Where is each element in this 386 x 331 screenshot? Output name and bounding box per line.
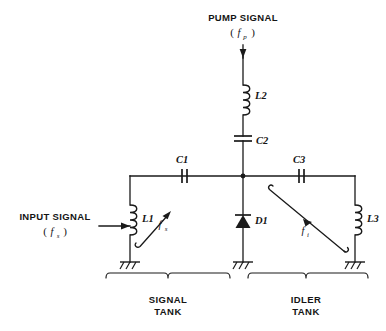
parametric-amplifier-diagram: PUMP SIGNAL ( f p ) L2 C2 [0, 0, 386, 331]
d1-anode-triangle-icon [236, 215, 251, 228]
component-c2: C2 [234, 135, 269, 146]
c1-label: C1 [176, 154, 188, 165]
l1-coil-icon [130, 205, 137, 235]
center-ground-hatch-1-icon [233, 262, 237, 269]
l3-coil-icon [355, 205, 362, 235]
ground-center [233, 262, 253, 269]
input-freq-open-paren: ( [43, 225, 47, 238]
signal-ground-hatch-2-icon [126, 262, 130, 269]
input-freq-close-paren: ) [63, 225, 67, 238]
signal-tank-group: SIGNAL TANK [106, 273, 230, 317]
component-c3: C3 [293, 154, 305, 183]
l3-label: L3 [366, 213, 379, 224]
pump-freq-open-paren: ( [230, 26, 234, 39]
signal-tank-label-line2: TANK [154, 306, 181, 317]
pump-freq-subscript: p [242, 33, 247, 41]
idler-tank-label-line2: TANK [292, 306, 319, 317]
idler-tune-freq-subscript: i [307, 231, 309, 239]
signal-ground-hatch-3-icon [132, 262, 136, 269]
component-l1: L1 [130, 205, 154, 235]
signal-tank-label-line1: SIGNAL [149, 294, 187, 305]
idler-tank-group: IDLER TANK [248, 273, 368, 317]
component-d1: D1 [235, 215, 268, 228]
pump-signal-label: PUMP SIGNAL [208, 12, 278, 23]
center-ground-hatch-3-icon [245, 262, 249, 269]
component-c1: C1 [176, 154, 188, 183]
d1-label: D1 [254, 215, 268, 226]
c2-label: C2 [256, 135, 269, 146]
idler-tuning-line-icon [269, 185, 345, 252]
component-l2: L2 [243, 85, 267, 115]
l2-label: L2 [254, 90, 267, 101]
pump-freq-symbol: f [238, 27, 243, 38]
signal-ground-hatch-1-icon [120, 262, 124, 269]
c3-label: C3 [293, 154, 305, 165]
idler-tuning-hook-icon [344, 248, 348, 252]
idler-ground-hatch-3-icon [357, 262, 361, 269]
center-ground-hatch-2-icon [239, 262, 243, 269]
idler-tank-brace-icon [248, 273, 368, 278]
input-signal-label: INPUT SIGNAL [19, 211, 90, 222]
l1-label: L1 [141, 213, 154, 224]
signal-tune-freq-subscript: s [165, 225, 168, 233]
ground-idler-tank [345, 262, 365, 269]
schematic-canvas: PUMP SIGNAL ( f p ) L2 C2 [0, 0, 386, 331]
idler-tuning-arrow: f i [269, 185, 349, 252]
component-l3: L3 [355, 205, 379, 235]
input-arrow-head-icon [121, 223, 130, 230]
pump-signal-source: PUMP SIGNAL ( f p ) [208, 12, 278, 58]
idler-ground-hatch-2-icon [351, 262, 355, 269]
pump-freq-close-paren: ) [251, 26, 255, 39]
input-freq-subscript: s [57, 232, 60, 240]
signal-tuning-arrowhead-icon [163, 211, 172, 219]
l2-coil-icon [243, 85, 250, 115]
idler-tune-freq-symbol: f [302, 225, 307, 236]
input-signal-source: INPUT SIGNAL ( f s ) [19, 211, 130, 240]
idler-tank-label-line1: IDLER [291, 294, 322, 305]
ground-signal-tank [120, 262, 140, 269]
idler-ground-hatch-1-icon [345, 262, 349, 269]
input-freq-symbol: f [51, 226, 56, 237]
signal-tank-brace-icon [106, 273, 230, 278]
